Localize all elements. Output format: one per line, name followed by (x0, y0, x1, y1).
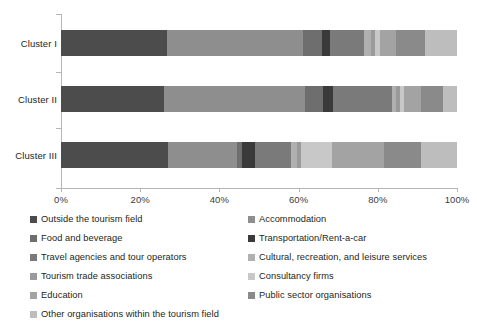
bar-cluster-i (61, 30, 457, 56)
bar-segment (421, 142, 457, 168)
legend-item[interactable]: Outside the tourism field (30, 210, 219, 229)
y-axis-tick (56, 72, 61, 73)
legend-item[interactable]: Transportation/Rent-a-car (248, 229, 427, 248)
legend-item[interactable]: Public sector organisations (248, 286, 427, 305)
legend-item[interactable]: Accommodation (248, 210, 427, 229)
bar-segment (323, 86, 333, 112)
bar-segment (61, 30, 167, 56)
legend-item[interactable]: Education (30, 286, 219, 305)
bar-segment (421, 86, 443, 112)
x-axis-tick (140, 188, 141, 192)
legend-label: Food and beverage (41, 234, 123, 243)
chart-legend: Outside the tourism fieldFood and bevera… (0, 210, 477, 330)
legend-label: Other organisations within the tourism f… (41, 310, 219, 319)
legend-swatch-icon (248, 254, 255, 261)
legend-label: Consultancy firms (259, 272, 334, 281)
bar-segment (61, 142, 168, 168)
legend-swatch-icon (30, 311, 37, 318)
legend-label: Outside the tourism field (41, 215, 143, 224)
bar-cluster-ii (61, 86, 457, 112)
x-axis-tick-label: 100% (445, 194, 470, 205)
bar-segment (303, 30, 323, 56)
x-axis-tick-label: 20% (131, 194, 150, 205)
bar-segment (61, 86, 164, 112)
bar-segment (333, 86, 392, 112)
legend-swatch-icon (30, 216, 37, 223)
legend-label: Public sector organisations (259, 291, 371, 300)
plot-area: 0%20%40%60%80%100% Cluster ICluster IICl… (0, 0, 477, 200)
category-label-3: Cluster III (15, 150, 57, 161)
bar-segment (332, 142, 383, 168)
y-axis-tick (56, 188, 61, 189)
x-axis-tick-label: 40% (210, 194, 229, 205)
y-axis-tick (56, 14, 61, 15)
x-axis-tick (299, 188, 300, 192)
category-label-1: Cluster I (21, 38, 57, 49)
legend-item[interactable]: Tourism trade associations (30, 267, 219, 286)
legend-swatch-icon (248, 235, 255, 242)
bar-segment (443, 86, 457, 112)
legend-label: Transportation/Rent-a-car (259, 234, 366, 243)
y-axis-tick (56, 128, 61, 129)
legend-item[interactable]: Cultural, recreation, and leisure servic… (248, 248, 427, 267)
legend-column-left: Outside the tourism fieldFood and bevera… (30, 210, 219, 324)
legend-swatch-icon (30, 273, 37, 280)
bar-segment (425, 30, 457, 56)
bar-segment (322, 30, 330, 56)
legend-swatch-icon (30, 254, 37, 261)
x-axis-tick (457, 188, 458, 192)
legend-column-right: AccommodationTransportation/Rent-a-carCu… (248, 210, 427, 305)
x-axis-tick-label: 80% (368, 194, 387, 205)
x-axis-tick-label: 60% (289, 194, 308, 205)
legend-item[interactable]: Other organisations within the tourism f… (30, 305, 219, 324)
stacked-bar-chart: 0%20%40%60%80%100% Cluster ICluster IICl… (0, 0, 477, 330)
legend-label: Education (41, 291, 83, 300)
bar-segment (301, 142, 333, 168)
bar-segment (384, 142, 422, 168)
legend-item[interactable]: Food and beverage (30, 229, 219, 248)
legend-item[interactable]: Consultancy firms (248, 267, 427, 286)
bar-segment (255, 142, 291, 168)
legend-swatch-icon (248, 273, 255, 280)
x-axis-line (61, 188, 457, 189)
bar-segment (404, 86, 422, 112)
x-axis-tick-label: 0% (54, 194, 68, 205)
bar-segment (396, 30, 426, 56)
bar-segment (168, 142, 237, 168)
legend-item[interactable]: Travel agencies and tour operators (30, 248, 219, 267)
legend-swatch-icon (30, 292, 37, 299)
bar-cluster-iii (61, 142, 457, 168)
category-label-2: Cluster II (18, 94, 57, 105)
bar-segment (330, 30, 364, 56)
legend-label: Cultural, recreation, and leisure servic… (259, 253, 427, 262)
bar-segment (242, 142, 255, 168)
legend-label: Tourism trade associations (41, 272, 152, 281)
bar-segment (167, 30, 302, 56)
x-axis-tick (219, 188, 220, 192)
legend-label: Travel agencies and tour operators (41, 253, 187, 262)
bar-segment (164, 86, 305, 112)
legend-swatch-icon (248, 292, 255, 299)
bar-segment (305, 86, 324, 112)
x-axis-tick (61, 188, 62, 192)
x-axis-tick (378, 188, 379, 192)
bar-segment (364, 30, 371, 56)
legend-swatch-icon (248, 216, 255, 223)
legend-swatch-icon (30, 235, 37, 242)
bar-segment (380, 30, 396, 56)
legend-label: Accommodation (259, 215, 326, 224)
